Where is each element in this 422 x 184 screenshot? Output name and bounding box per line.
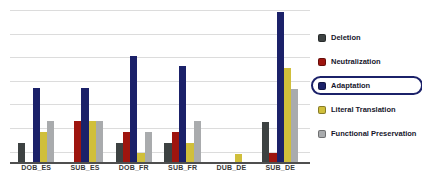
bar-group-sub_de [262, 10, 299, 162]
deletion-swatch-icon [318, 34, 326, 42]
bar-adaptation-sub_de [277, 12, 284, 162]
bar-functional-preservation-dob_es [47, 121, 54, 162]
legend-item-adaptation: Adaptation [311, 76, 422, 95]
bar-literal-translation-sub_fr [186, 143, 193, 162]
bar-literal-translation-dob_fr [137, 153, 144, 162]
bar-deletion-dob_fr [116, 143, 123, 162]
functional-preservation-swatch-icon [318, 130, 326, 138]
x-label-sub_de: SUB_DE [265, 164, 295, 171]
legend: DeletionNeutralizationAdaptationLiteral … [311, 28, 422, 143]
bar-literal-translation-dob_es [40, 132, 47, 162]
x-label-dob_es: DOB_ES [21, 164, 51, 171]
legend-item-deletion: Deletion [311, 28, 422, 47]
bar-adaptation-dob_es [33, 88, 40, 162]
literal-translation-swatch-icon [318, 106, 326, 114]
bar-functional-preservation-sub_es [96, 121, 103, 162]
bar-adaptation-dob_fr [130, 56, 137, 162]
bar-neutralization-dob_fr [123, 132, 130, 162]
bar-neutralization-sub_de [269, 153, 276, 162]
bar-literal-translation-sub_es [89, 121, 96, 162]
x-label-dub_de: DUB_DE [216, 164, 246, 171]
bar-adaptation-sub_fr [179, 66, 186, 162]
legend-item-neutralization: Neutralization [311, 52, 422, 71]
bar-literal-translation-dub_de [235, 154, 242, 162]
legend-item-functional-preservation: Functional Preservation [311, 124, 422, 143]
bar-functional-preservation-sub_fr [194, 121, 201, 162]
x-label-sub_es: SUB_ES [70, 164, 99, 171]
bar-group-sub_es [67, 10, 104, 162]
bar-deletion-dob_es [18, 143, 25, 162]
bar-chart-figure: DOB_ESSUB_ESDOB_FRSUB_FRDUB_DESUB_DE Del… [0, 0, 422, 184]
legend-label: Adaptation [331, 81, 370, 90]
bar-functional-preservation-sub_de [291, 89, 298, 162]
legend-label: Neutralization [331, 57, 381, 66]
bar-group-sub_fr [164, 10, 201, 162]
bar-group-dob_es [18, 10, 55, 162]
legend-item-literal-translation: Literal Translation [311, 100, 422, 119]
bar-group-dub_de [213, 10, 250, 162]
bar-neutralization-sub_es [74, 121, 81, 162]
legend-label: Literal Translation [331, 105, 396, 114]
bar-group-dob_fr [116, 10, 153, 162]
x-label-sub_fr: SUB_FR [168, 164, 197, 171]
bar-deletion-sub_de [262, 122, 269, 162]
adaptation-swatch-icon [318, 82, 326, 90]
x-axis-labels: DOB_ESSUB_ESDOB_FRSUB_FRDUB_DESUB_DE [10, 164, 310, 176]
plot-area [10, 10, 310, 164]
x-label-dob_fr: DOB_FR [119, 164, 149, 171]
bar-neutralization-sub_fr [172, 132, 179, 162]
bar-functional-preservation-dob_fr [145, 132, 152, 162]
legend-label: Deletion [331, 33, 361, 42]
legend-label: Functional Preservation [331, 129, 416, 138]
bar-adaptation-sub_es [81, 88, 88, 162]
neutralization-swatch-icon [318, 58, 326, 66]
bar-deletion-sub_fr [164, 143, 171, 162]
bar-literal-translation-sub_de [284, 68, 291, 162]
